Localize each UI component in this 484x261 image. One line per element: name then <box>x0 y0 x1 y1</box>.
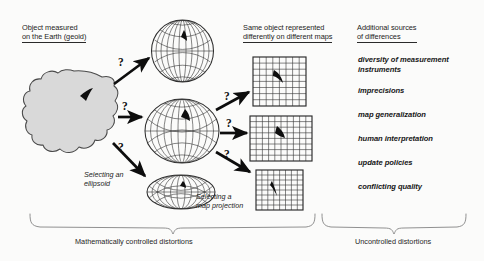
source-item-conflicting-quality: conflicting quality <box>358 182 422 192</box>
question-mark-globe-to-map-bottom: ? <box>224 148 230 160</box>
diagram-graphics <box>0 0 484 261</box>
label-selecting-ellipsoid: Selecting an ellipsoid <box>84 170 124 188</box>
question-mark-geoid-to-sphere: ? <box>118 56 124 68</box>
brace-mathematically-controlled <box>30 214 315 234</box>
source-item-diversity: diversity of measurement instruments <box>358 55 449 74</box>
source-item-human-interpretation: human interpretation <box>358 134 433 144</box>
map-grid-bottom <box>256 170 303 210</box>
brace-uncontrolled <box>322 214 466 234</box>
geoid-blob <box>22 70 118 153</box>
question-mark-globe-to-map-top: ? <box>224 90 230 102</box>
arrow-globe-to-map-bottom <box>216 152 250 172</box>
label-selecting-map-projection: Selecting a map projection <box>196 192 243 210</box>
source-item-imprecisions: imprecisions <box>358 86 404 96</box>
arrows-geoid-to-globes <box>113 58 149 176</box>
question-mark-geoid-to-ellipsoid: ? <box>122 100 128 112</box>
globe-sphere <box>152 20 214 82</box>
arrows-globe-to-maps <box>216 92 250 172</box>
caption-uncontrolled-distortions: Uncontrolled distortions <box>355 237 431 246</box>
arrow-globe-to-map-top <box>216 92 249 110</box>
globe-ellipsoid-main <box>145 99 219 163</box>
globe-flat-feature-marker <box>180 181 186 188</box>
source-item-map-generalization: map generalization <box>358 110 426 120</box>
map-grid-middle <box>250 116 312 161</box>
diagram-canvas: Object measured on the Earth (geoid) Sam… <box>0 0 484 261</box>
map-grid-top <box>253 57 306 106</box>
caption-mathematically-controlled-distortions: Mathematically controlled distortions <box>75 237 193 246</box>
globe-sphere-feature-marker <box>181 30 187 41</box>
question-mark-globe-to-map-mid: ? <box>226 117 232 129</box>
map-middle-feature-marker <box>275 126 285 138</box>
source-item-update-policies: update policies <box>358 158 413 168</box>
map-top-feature-marker <box>273 70 283 83</box>
question-mark-geoid-to-flat: ? <box>118 141 124 153</box>
